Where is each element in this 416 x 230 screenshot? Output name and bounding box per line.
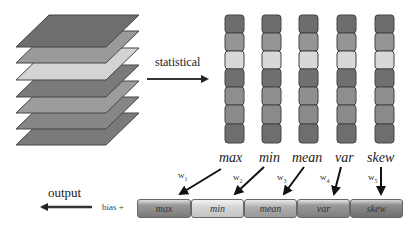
weight-label-4: w4	[320, 172, 330, 184]
segment-skew: skew	[350, 199, 403, 218]
stat-label-skew: skew	[367, 150, 394, 166]
column-var	[337, 15, 356, 143]
column-mean	[299, 15, 318, 143]
segment-min: min	[191, 199, 244, 218]
segment-max: max	[137, 199, 191, 218]
bias-label: bias +	[102, 202, 124, 212]
segment-var: var	[297, 199, 350, 218]
stat-label-mean: mean	[292, 150, 322, 166]
column-max	[225, 15, 244, 143]
stat-label-min: min	[259, 150, 280, 166]
weight-label-1: w1	[178, 170, 188, 182]
arrow-w4	[334, 167, 341, 194]
segment-mean: mean	[244, 199, 297, 218]
arrow-w3	[284, 167, 304, 194]
stat-label-max: max	[219, 150, 242, 166]
statistic-columns	[225, 15, 394, 143]
stat-label-var: var	[335, 150, 354, 166]
column-min	[262, 15, 281, 143]
output-label: output	[48, 185, 81, 201]
weight-label-3: w3	[277, 172, 287, 184]
feature-map-stack	[16, 15, 139, 145]
weight-label-5: w5	[368, 172, 378, 184]
weight-label-2: w2	[233, 172, 243, 184]
column-skew	[375, 15, 394, 143]
statistical-label: statistical	[155, 55, 200, 70]
